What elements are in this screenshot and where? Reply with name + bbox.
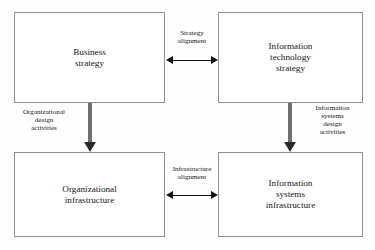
label-infrastructure-alignment: Infrastructure alignment <box>155 165 229 181</box>
arrow-head-right-icon <box>211 56 218 64</box>
box-information-systems-infrastructure[interactable]: Information systems infrastructure <box>218 152 363 237</box>
down-arrow-icon-organizational-design <box>84 103 96 152</box>
label-information-systems-design-activities: Information systems design activities <box>294 104 371 136</box>
box-business-strategy-label: Business strategy <box>69 47 110 69</box>
arrow-shaft <box>171 60 213 61</box>
box-information-technology-strategy-label: Information technology strategy <box>265 41 317 74</box>
arrow-shaft <box>288 103 292 143</box>
double-arrow-icon-strategy-alignment <box>166 56 218 65</box>
label-strategy-alignment: Strategy alignment <box>160 29 224 45</box>
arrow-head-down-icon <box>84 142 96 152</box>
label-organizational-design-activities: Organizational design activities <box>4 108 84 132</box>
arrow-head-down-icon <box>284 142 296 152</box>
arrow-shaft <box>171 195 213 196</box>
arrow-shaft <box>88 103 92 143</box>
box-organizational-infrastructure[interactable]: Organizational infrastructure <box>14 152 165 237</box>
box-information-technology-strategy[interactable]: Information technology strategy <box>218 12 363 103</box>
arrow-head-right-icon <box>211 191 218 199</box>
diagram-canvas: Business strategy Information technology… <box>0 0 375 250</box>
box-information-systems-infrastructure-label: Information systems infrastructure <box>262 178 320 211</box>
box-organizational-infrastructure-label: Organizational infrastructure <box>58 184 120 206</box>
double-arrow-icon-infrastructure-alignment <box>166 191 218 200</box>
box-business-strategy[interactable]: Business strategy <box>14 12 165 103</box>
